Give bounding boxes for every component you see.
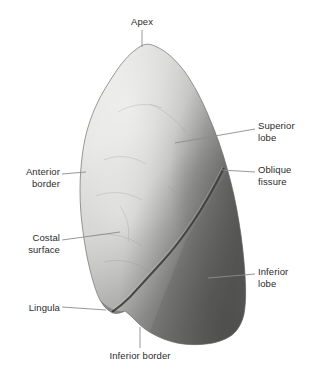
lung-specimen-body bbox=[70, 38, 260, 356]
anatomy-figure: ApexSuperior lobeOblique fissureInferior… bbox=[0, 0, 314, 382]
label-oblique-fissure: Oblique fissure bbox=[258, 164, 312, 187]
label-apex: Apex bbox=[120, 16, 164, 28]
label-costal-surface: Costal surface bbox=[4, 232, 60, 255]
label-anterior-border: Anterior border bbox=[6, 166, 60, 189]
label-superior-lobe: Superior lobe bbox=[258, 120, 312, 143]
label-inferior-lobe: Inferior lobe bbox=[258, 266, 312, 289]
label-lingula: Lingula bbox=[6, 302, 60, 314]
label-lingula-leader bbox=[62, 307, 106, 310]
label-inferior-border: Inferior border bbox=[100, 350, 180, 362]
lung-illustration bbox=[0, 0, 314, 382]
